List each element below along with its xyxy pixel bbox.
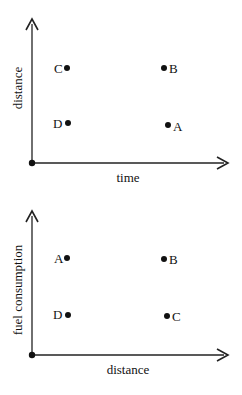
point-b (161, 256, 167, 262)
y-axis-label: distance (10, 66, 25, 109)
point-a (64, 255, 70, 261)
bottom-plot: distance fuel consumption A B D C (10, 211, 228, 377)
y-axis-label: fuel consumption (10, 244, 25, 335)
point-d-label: D (53, 116, 62, 131)
point-c-label: C (54, 61, 63, 76)
point-c (164, 313, 170, 319)
point-d (65, 120, 71, 126)
point-a (165, 122, 171, 128)
point-c (64, 65, 70, 71)
top-plot: time distance C B D A (10, 19, 228, 185)
point-b-label: B (169, 252, 178, 267)
x-axis-label: distance (107, 362, 150, 377)
point-a-label: A (54, 251, 64, 266)
point-b (161, 65, 167, 71)
origin-dot (29, 160, 35, 166)
point-d-label: D (53, 307, 62, 322)
point-c-label: C (172, 309, 181, 324)
x-axis-label: time (116, 170, 139, 185)
point-d (65, 312, 71, 318)
point-a-label: A (173, 119, 183, 134)
point-b-label: B (169, 61, 178, 76)
origin-dot (29, 352, 35, 358)
figure: time distance C B D A distance fuel cons… (0, 0, 242, 395)
